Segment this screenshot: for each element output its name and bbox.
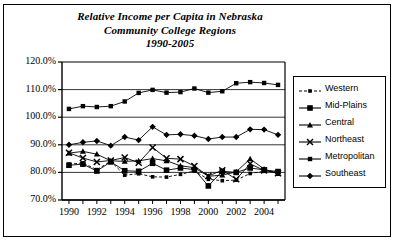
datapoint-4-1991 bbox=[81, 104, 85, 108]
series-line-0 bbox=[69, 161, 278, 180]
legend-item-central[interactable]: Central bbox=[294, 114, 385, 131]
datapoint-4-2000 bbox=[206, 90, 210, 94]
x-tick-label-2004: 2004 bbox=[247, 206, 281, 217]
legend-item-western[interactable]: Western bbox=[294, 80, 385, 97]
datapoint-1-1997 bbox=[164, 167, 170, 173]
datapoint-5-2004 bbox=[261, 126, 267, 132]
datapoint-4-2005 bbox=[276, 83, 280, 87]
datapoint-0-1998 bbox=[179, 173, 183, 177]
datapoint-5-2003 bbox=[247, 126, 253, 132]
series-metropolitan bbox=[67, 80, 280, 111]
datapoint-4-1997 bbox=[164, 90, 168, 94]
datapoint-5-2001 bbox=[219, 134, 225, 140]
series-line-5 bbox=[69, 127, 278, 146]
y-tick-label-70: 70.0% bbox=[8, 193, 56, 204]
chart-figure: Relative Income per Capita in Nebraska C… bbox=[0, 0, 394, 241]
datapoint-1-1990 bbox=[66, 162, 72, 168]
datapoint-4-1999 bbox=[192, 86, 196, 90]
legend-marker-glyph bbox=[307, 105, 313, 111]
datapoint-5-2000 bbox=[205, 136, 211, 142]
datapoint-1-1995 bbox=[136, 168, 142, 174]
datapoint-0-1996 bbox=[151, 175, 155, 179]
datapoint-5-2002 bbox=[233, 134, 239, 140]
legend-marker-triangle-icon bbox=[298, 117, 322, 129]
legend-marker-medium-square-icon bbox=[298, 151, 322, 163]
legend-marker-large-square-icon bbox=[298, 100, 322, 112]
legend-marker-glyph bbox=[307, 172, 313, 178]
legend-label-western: Western bbox=[322, 83, 358, 94]
legend-item-mid-plains[interactable]: Mid-Plains bbox=[294, 97, 385, 114]
datapoint-4-2002 bbox=[234, 81, 238, 85]
legend-label-southeast: Southeast bbox=[322, 168, 366, 179]
legend-marker-diamond-icon bbox=[298, 168, 322, 180]
datapoint-3-1996 bbox=[150, 145, 156, 151]
datapoint-4-1996 bbox=[150, 88, 154, 92]
datapoint-4-1990 bbox=[67, 107, 71, 111]
datapoint-1-1992 bbox=[94, 168, 100, 174]
datapoint-5-1990 bbox=[66, 142, 72, 148]
legend-marker-glyph bbox=[308, 156, 312, 160]
datapoint-5-1998 bbox=[177, 131, 183, 137]
datapoint-1-1996 bbox=[150, 160, 156, 166]
datapoint-0-1994 bbox=[123, 173, 127, 177]
datapoint-0-2001 bbox=[220, 179, 224, 183]
datapoint-4-2003 bbox=[248, 80, 252, 84]
datapoint-5-1993 bbox=[108, 142, 114, 148]
datapoint-2-1996 bbox=[150, 156, 156, 162]
legend-label-central: Central bbox=[322, 117, 354, 128]
datapoint-4-1992 bbox=[95, 105, 99, 109]
datapoint-4-2004 bbox=[262, 81, 266, 85]
datapoint-5-1992 bbox=[94, 138, 100, 144]
datapoint-0-2003 bbox=[248, 172, 252, 176]
legend-label-mid-plains: Mid-Plains bbox=[322, 100, 367, 111]
datapoint-4-1995 bbox=[136, 91, 140, 95]
legend-label-northeast: Northeast bbox=[322, 134, 364, 145]
legend-item-metropolitan[interactable]: Metropolitan bbox=[294, 148, 385, 165]
legend-marker-x-cross-icon bbox=[298, 134, 322, 146]
datapoint-2-2003 bbox=[247, 156, 253, 162]
datapoint-4-1998 bbox=[178, 90, 182, 94]
series-line-1 bbox=[69, 162, 278, 186]
series-line-4 bbox=[69, 82, 278, 109]
y-tick-label-120: 120.0% bbox=[8, 55, 56, 66]
y-tick-label-90: 90.0% bbox=[8, 138, 56, 149]
datapoint-1-1991 bbox=[80, 161, 86, 167]
datapoint-0-1997 bbox=[165, 175, 169, 179]
datapoint-5-1994 bbox=[122, 134, 128, 140]
datapoint-5-2005 bbox=[275, 132, 281, 138]
datapoint-2-1991 bbox=[80, 148, 86, 154]
legend-item-northeast[interactable]: Northeast bbox=[294, 131, 385, 148]
datapoint-4-2001 bbox=[220, 89, 224, 93]
datapoint-3-1991 bbox=[80, 155, 86, 161]
y-tick-label-110: 110.0% bbox=[8, 83, 56, 94]
datapoint-1-1994 bbox=[122, 168, 128, 174]
datapoint-1-2000 bbox=[206, 183, 212, 189]
datapoint-4-1993 bbox=[109, 104, 113, 108]
legend-marker-small-square-icon bbox=[298, 83, 322, 95]
legend-label-metropolitan: Metropolitan bbox=[322, 151, 375, 162]
y-tick-label-100: 100.0% bbox=[8, 110, 56, 121]
datapoint-5-1999 bbox=[191, 132, 197, 138]
legend-item-southeast[interactable]: Southeast bbox=[294, 165, 385, 182]
datapoint-4-1994 bbox=[123, 99, 127, 103]
datapoint-5-1997 bbox=[163, 132, 169, 138]
legend-marker-glyph bbox=[308, 89, 312, 93]
y-tick-label-80: 80.0% bbox=[8, 165, 56, 176]
chart-legend: Western Mid-Plains Central Northeast Met… bbox=[293, 76, 386, 188]
